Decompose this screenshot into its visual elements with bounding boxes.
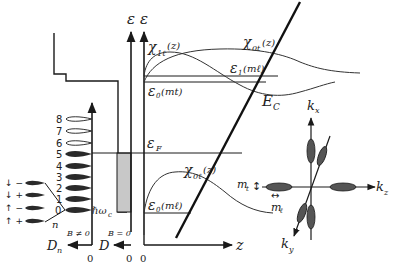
chi-1l-label: χ 1ℓ (z) [147, 39, 180, 58]
svg-text:(z): (z) [262, 37, 275, 48]
svg-text:ℏω: ℏω [92, 205, 107, 216]
svg-text:0ℓ: 0ℓ [193, 172, 202, 181]
zero-field-label: B = 0 [107, 229, 131, 238]
eps0-mt-label: ε 0 (mt) [148, 83, 182, 100]
svg-text:↓ +: ↓ + [5, 190, 23, 200]
band-diagram-figure: ε ε z ε F E C χ 1ℓ (z) χ 0t (z) ε [0, 0, 397, 265]
zero-field-dos-axis-label: D [98, 238, 110, 253]
chi-0l-label: χ 0ℓ (z) [183, 162, 216, 181]
svg-text:t: t [246, 185, 249, 193]
svg-text:8: 8 [56, 114, 62, 125]
svg-text:2: 2 [56, 183, 62, 194]
svg-text:(mℓ): (mℓ) [243, 63, 265, 74]
svg-text:0t: 0t [252, 44, 261, 53]
z-axis-label: z [235, 237, 244, 253]
z-axis: z [144, 235, 244, 253]
svg-text:k: k [281, 236, 289, 251]
energy-axis-1-label: ε [127, 10, 135, 28]
svg-text:k: k [376, 179, 384, 194]
svg-text:4: 4 [56, 161, 62, 172]
svg-text:F: F [155, 144, 162, 153]
svg-text:ε: ε [148, 197, 156, 213]
svg-text:(mt): (mt) [161, 86, 182, 97]
stepped-potential-line [54, 33, 127, 212]
kspace-diagram: k x k z k y m t ↕ ↔ m ℓ [237, 98, 389, 254]
chi-0t-label: χ 0t (z) [242, 34, 275, 53]
fermi-level: ε F [92, 135, 242, 153]
svg-text:k: k [307, 98, 315, 113]
kx-label: k x [307, 98, 320, 115]
landau-dos-axis [68, 103, 92, 245]
svg-text:6: 6 [56, 138, 62, 149]
svg-text:ε: ε [147, 135, 155, 151]
svg-text:1ℓ: 1ℓ [157, 49, 166, 58]
landau-dos-zero: 0 [87, 253, 93, 264]
landau-dos-axis-label: D n [46, 238, 62, 255]
mt-label: m t ↕ [237, 178, 261, 193]
svg-text:E: E [261, 92, 273, 110]
svg-text:1: 1 [238, 69, 242, 77]
svg-text:↑ +: ↑ + [5, 216, 23, 226]
energy-axis-2-label: ε [140, 10, 148, 28]
eps0-ml-label: ε 0 (mℓ) [148, 197, 183, 214]
origin-zero: 0 [140, 253, 146, 264]
nonzero-field-label: B ≠ 0 [66, 229, 90, 238]
eps1-label: ε 1 (mℓ) [230, 60, 265, 77]
svg-text:↕: ↕ [252, 180, 261, 193]
svg-text:↓ −: ↓ − [5, 178, 23, 188]
ml-label: ↔ m ℓ [271, 190, 283, 215]
zero-field-dos-zero: 0 [126, 253, 132, 264]
svg-text:7: 7 [56, 126, 62, 137]
svg-text:ℓ: ℓ [279, 207, 283, 215]
svg-text:5: 5 [56, 149, 62, 160]
svg-text:3: 3 [56, 172, 62, 183]
svg-text:(z): (z) [167, 40, 180, 51]
svg-text:(z): (z) [203, 164, 216, 175]
ky-label: k y [281, 236, 294, 254]
svg-text:y: y [288, 245, 294, 254]
landau-levels-filled [65, 151, 92, 213]
svg-text:z: z [383, 188, 389, 197]
svg-text:↑ −: ↑ − [5, 203, 23, 213]
zero-field-dos-shaded [117, 153, 131, 212]
cyclotron-spacing-label: ℏω c [92, 205, 112, 219]
landau-levels-empty [66, 117, 92, 146]
svg-text:ε: ε [230, 60, 238, 76]
kz-label: k z [376, 179, 389, 197]
landau-index-n: n [52, 219, 58, 230]
spin-labels: ↓ − ↓ + ↑ − ↑ + [5, 178, 23, 226]
svg-text:x: x [315, 106, 320, 115]
svg-text:n: n [57, 246, 62, 255]
svg-text:C: C [273, 102, 280, 112]
svg-text:↔: ↔ [271, 190, 279, 201]
svg-text:c: c [108, 211, 112, 219]
svg-text:(mℓ): (mℓ) [161, 200, 183, 211]
svg-text:ε: ε [148, 83, 156, 99]
spin-split-levels [25, 181, 45, 224]
